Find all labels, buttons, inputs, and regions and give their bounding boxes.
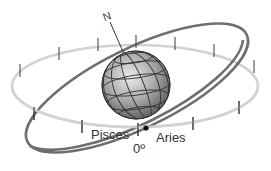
pisces-label: Pisces <box>91 128 129 141</box>
vernal-equinox-point <box>143 125 148 130</box>
zero-degree-label: 0º <box>133 142 145 155</box>
aries-label: Aries <box>156 131 186 144</box>
north-axis <box>110 22 124 54</box>
